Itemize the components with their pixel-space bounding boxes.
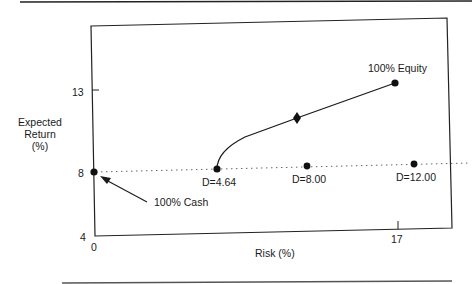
- ytick-13-label: 13: [72, 86, 84, 98]
- ylabel-line2: Return: [24, 128, 56, 140]
- marker-diamond: [293, 112, 301, 124]
- marker-d1200: [411, 161, 418, 168]
- chart-canvas: 13 8 4 0 17 Expected Return (%) Risk (%)…: [0, 0, 473, 284]
- marker-d464: [213, 165, 220, 172]
- marker-d800: [304, 163, 311, 170]
- cash-arrow-shaft: [106, 180, 147, 202]
- xlabel: Risk (%): [255, 247, 295, 259]
- marker-equity: [391, 79, 398, 86]
- ytick-8-label: 8: [78, 167, 84, 179]
- ylabel-line1: Expected: [18, 116, 62, 128]
- bottom-rule: [62, 281, 452, 283]
- ytick-4-label: 4: [80, 231, 86, 243]
- label-100-equity: 100% Equity: [368, 62, 428, 74]
- label-d1200: D=12.00: [396, 171, 436, 183]
- label-d800: D=8.00: [292, 173, 326, 185]
- xtick-17-label: 17: [391, 233, 403, 245]
- cash-arrow-head: [100, 176, 111, 184]
- label-100-cash: 100% Cash: [154, 196, 208, 208]
- ylabel-line3: (%): [32, 140, 48, 152]
- top-rule: [20, 1, 472, 2]
- frontier-curve: [217, 83, 395, 169]
- xtick-0-label: 0: [91, 241, 97, 253]
- marker-cash: [90, 168, 97, 175]
- label-d464: D=4.64: [202, 176, 236, 188]
